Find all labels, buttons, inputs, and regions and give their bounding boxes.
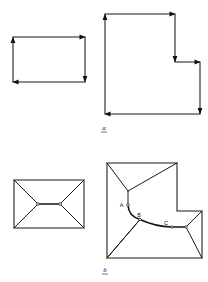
skeleton-node-right	[59, 203, 62, 206]
label-B: B	[137, 212, 141, 218]
panel-a-caption: a	[102, 124, 106, 132]
figure-background	[0, 0, 208, 282]
skeleton-node-a	[127, 204, 130, 207]
skeleton-node-b	[139, 218, 141, 220]
skeleton-node-left	[37, 203, 40, 206]
skeleton-node-d	[185, 226, 187, 228]
label-A: A	[120, 202, 124, 208]
label-C: C	[164, 220, 168, 226]
figure-canvas: a	[0, 0, 208, 282]
skeleton-node-c	[171, 226, 173, 228]
panel-b-caption: b	[103, 266, 107, 274]
